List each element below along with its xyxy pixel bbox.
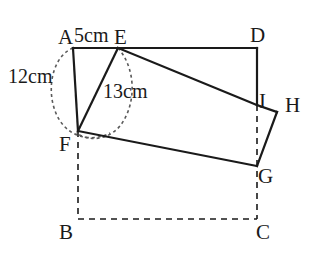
vertex-label-B: B <box>59 222 73 243</box>
measurement-label-AE: 5cm <box>74 25 108 45</box>
vertex-label-D: D <box>250 25 265 46</box>
measurement-label-EF: 13cm <box>103 81 147 101</box>
solid-edge-A-F <box>73 48 78 131</box>
vertex-label-F: F <box>59 134 71 155</box>
vertex-label-E: E <box>114 27 127 48</box>
figure-canvas <box>0 0 319 257</box>
solid-edges-group <box>73 48 277 166</box>
measurement-label-AF: 12cm <box>8 66 52 86</box>
dashed-edges-group <box>78 105 257 219</box>
geometry-figure: AEDIHFGBC 5cm12cm13cm <box>0 0 319 257</box>
solid-edge-H-G <box>257 112 277 166</box>
solid-edge-F-G <box>78 131 257 166</box>
vertex-label-I: I <box>259 91 266 112</box>
vertex-label-H: H <box>285 95 300 116</box>
vertex-label-A: A <box>58 27 73 48</box>
vertex-label-C: C <box>256 222 270 243</box>
vertex-label-G: G <box>258 166 273 187</box>
